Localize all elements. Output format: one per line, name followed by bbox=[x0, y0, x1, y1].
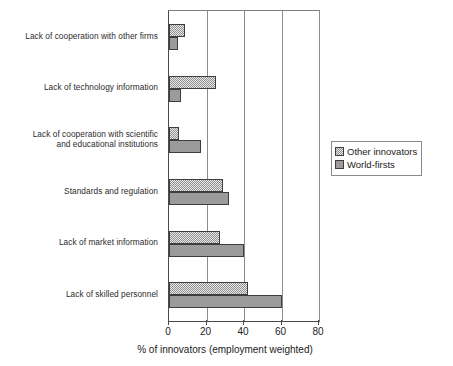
category-label: Lack of cooperation with other firms bbox=[0, 31, 158, 42]
bar bbox=[169, 179, 223, 192]
category-axis-labels: Lack of cooperation with other firmsLack… bbox=[0, 10, 162, 320]
x-axis-tick bbox=[243, 320, 244, 325]
bar bbox=[169, 127, 179, 140]
gridline bbox=[319, 11, 320, 321]
legend-swatch-icon-other-innovators bbox=[335, 147, 344, 156]
x-axis-tick bbox=[168, 320, 169, 325]
legend-swatch-icon-world-firsts bbox=[335, 160, 344, 169]
gridline bbox=[244, 11, 245, 321]
legend-label-other-innovators: Other innovators bbox=[347, 146, 417, 157]
legend-label-world-firsts: World-firsts bbox=[347, 159, 395, 170]
category-label: Lack of cooperation with scientificand e… bbox=[0, 129, 158, 150]
bar bbox=[169, 231, 220, 244]
legend-item-other-innovators[interactable]: Other innovators bbox=[335, 145, 417, 158]
x-axis-tick bbox=[206, 320, 207, 325]
x-axis-title: % of innovators (employment weighted) bbox=[60, 344, 390, 355]
x-axis-tick-label: 60 bbox=[266, 326, 296, 337]
x-axis-tick-label: 40 bbox=[228, 326, 258, 337]
bar bbox=[169, 76, 216, 89]
legend: Other innovators World-firsts bbox=[331, 141, 422, 176]
x-axis-tick bbox=[318, 320, 319, 325]
bar bbox=[169, 140, 201, 153]
category-label: Lack of market information bbox=[0, 237, 158, 248]
bar bbox=[169, 89, 181, 102]
x-axis-tick-label: 80 bbox=[303, 326, 333, 337]
category-label: Lack of technology information bbox=[0, 82, 158, 93]
bar-chart: Lack of cooperation with other firmsLack… bbox=[0, 0, 453, 366]
legend-item-world-firsts[interactable]: World-firsts bbox=[335, 158, 417, 171]
x-axis-tick-label: 20 bbox=[191, 326, 221, 337]
x-axis-tick bbox=[281, 320, 282, 325]
plot-area bbox=[168, 10, 320, 322]
bar bbox=[169, 282, 248, 295]
gridline bbox=[207, 11, 208, 321]
category-label: Standards and regulation bbox=[0, 186, 158, 197]
category-label: Lack of skilled personnel bbox=[0, 289, 158, 300]
bar bbox=[169, 24, 185, 37]
gridline bbox=[282, 11, 283, 321]
bar bbox=[169, 295, 282, 308]
bar bbox=[169, 37, 178, 50]
bar bbox=[169, 244, 244, 257]
x-axis-tick-label: 0 bbox=[153, 326, 183, 337]
bar bbox=[169, 192, 229, 205]
